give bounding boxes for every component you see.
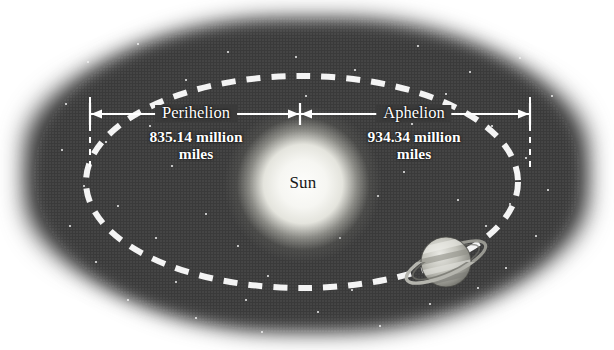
aphelion-value-group: 934.34 million miles [367, 128, 460, 163]
perihelion-label-group: Perihelion [155, 105, 237, 122]
aphelion-value: 934.34 million [367, 128, 460, 145]
perihelion-arrow-right [288, 109, 299, 118]
aphelion-label-group: Aphelion [376, 105, 451, 122]
aphelion-title: Aphelion [383, 105, 444, 122]
perihelion-title: Perihelion [162, 105, 230, 122]
perihelion-value: 835.14 million [149, 128, 242, 145]
orbital-diagram: Sun [0, 0, 614, 350]
perihelion-value-group: 835.14 million miles [149, 128, 242, 163]
perihelion-arrow-left [91, 109, 102, 118]
aphelion-arrow-right [518, 109, 529, 118]
dimension-lines [0, 0, 614, 350]
aphelion-unit: miles [367, 145, 460, 162]
perihelion-unit: miles [149, 145, 242, 162]
aphelion-arrow-left [301, 109, 312, 118]
